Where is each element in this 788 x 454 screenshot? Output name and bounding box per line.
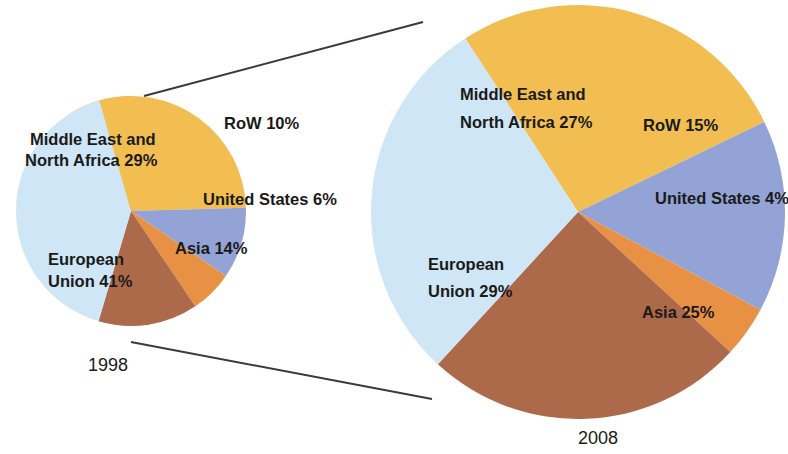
label-eu-2008-line2: Union 29%: [428, 282, 513, 300]
pie-chart-figure: Middle East and North Africa 29% RoW 10%…: [0, 0, 788, 454]
year-label-1998: 1998: [88, 355, 128, 375]
label-asia-1998: Asia 14%: [175, 239, 248, 257]
label-mena-1998-line2: North Africa 29%: [25, 151, 158, 169]
label-row-2008: RoW 15%: [643, 116, 719, 134]
label-eu-1998-line2: Union 41%: [48, 272, 133, 290]
label-mena-1998-line1: Middle East and: [30, 130, 156, 148]
connector-line-top: [144, 22, 423, 96]
label-us-1998: United States 6%: [203, 190, 337, 208]
label-eu-1998-line1: European: [48, 250, 124, 268]
label-us-2008: United States 4%: [655, 189, 788, 207]
label-mena-2008-line2: North Africa 27%: [460, 113, 593, 131]
label-eu-2008-line1: European: [428, 255, 504, 273]
label-row-1998: RoW 10%: [224, 114, 300, 132]
pie-chart-2008: [371, 5, 785, 419]
label-asia-2008: Asia 25%: [642, 303, 715, 321]
label-mena-2008-line1: Middle East and: [460, 85, 586, 103]
year-label-2008: 2008: [578, 428, 618, 448]
connector-line-bottom: [131, 342, 432, 399]
chart-canvas: Middle East and North Africa 29% RoW 10%…: [0, 0, 788, 454]
